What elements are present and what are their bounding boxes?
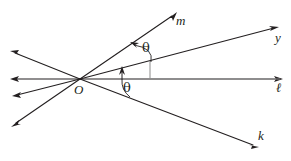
- label-vertex-o: O: [74, 83, 83, 96]
- ray-k-opposite-arrowhead: [10, 50, 20, 55]
- label-ray-l: ℓ: [276, 81, 281, 94]
- ray-m-group: [11, 12, 177, 127]
- label-ray-k: k: [258, 129, 264, 142]
- geometry-diagram: m y ℓ k O θ θ: [0, 0, 291, 161]
- ray-k-line: [80, 79, 253, 145]
- ray-y-line: [80, 28, 274, 79]
- label-ray-m: m: [176, 14, 185, 27]
- ray-m-opposite-line: [16, 79, 80, 123]
- label-angle-theta-lower: θ: [123, 81, 131, 94]
- ray-k-opposite-line: [15, 53, 80, 79]
- label-angle-theta-upper: θ: [142, 41, 150, 54]
- ray-y-opposite-line: [17, 79, 80, 95]
- ray-y-opposite-arrowhead: [12, 92, 21, 98]
- label-ray-y: y: [275, 31, 281, 44]
- ray-y-group: [12, 26, 279, 98]
- helper-segments: [150, 61, 280, 79]
- angle-theta-upper-tick: [130, 42, 139, 48]
- ray-k-arrowhead: [249, 145, 259, 149]
- diagram-canvas: [0, 0, 291, 161]
- ray-m-line: [80, 16, 172, 79]
